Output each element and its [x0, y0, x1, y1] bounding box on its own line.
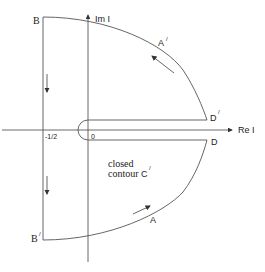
- point-b-prime-sup: /: [39, 231, 41, 237]
- point-a-prime-label: A: [158, 38, 164, 48]
- real-axis-label: Re I: [238, 125, 255, 135]
- minus-half-label: -1/2: [45, 133, 57, 140]
- point-d-prime-sup: /: [218, 109, 220, 115]
- contour-name-label: C: [141, 169, 148, 179]
- point-a-prime-sup: /: [166, 36, 168, 42]
- annotation-contour: contour: [108, 168, 139, 179]
- point-b-prime-label: B: [31, 233, 38, 244]
- point-a-label: A: [150, 215, 156, 225]
- imag-axis-label: Im I: [95, 14, 110, 24]
- keyhole-contour-diagram: Im I Re I 0 -1/2 B B / A / A D / D close…: [0, 0, 265, 272]
- point-b-label: B: [33, 15, 40, 26]
- arrow-along-upper-arc: [152, 56, 174, 73]
- arrow-along-lower-arc: [133, 206, 150, 214]
- contour-name-sup: /: [149, 165, 151, 171]
- point-d-prime-label: D: [210, 113, 217, 123]
- upper-arc-b-to-d-prime: [43, 17, 207, 120]
- origin-label: 0: [91, 133, 95, 140]
- point-d-label: D: [211, 137, 218, 147]
- lower-arc-b-prime-to-d: [43, 140, 207, 240]
